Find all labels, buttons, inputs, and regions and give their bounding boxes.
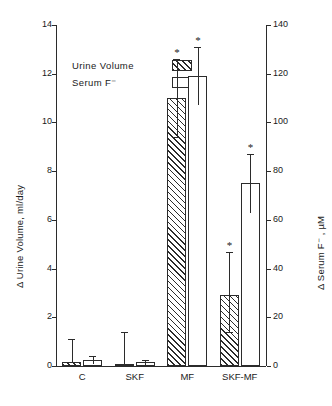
- bar-urine-volume-c: [62, 362, 81, 366]
- x-tick-label-skf-mf: SKF-MF: [210, 372, 270, 382]
- error-cap: [226, 332, 233, 333]
- error-bar-urine-volume-mf: [177, 59, 178, 137]
- left-tick-label: 10: [20, 117, 52, 126]
- right-tick: [267, 366, 271, 367]
- error-bar-serum-f-skf-mf: [250, 154, 251, 212]
- error-cap: [173, 137, 180, 138]
- right-tick: [267, 74, 271, 75]
- error-cap: [173, 59, 180, 60]
- right-tick-label: 120: [273, 69, 303, 78]
- significance-star: *: [174, 48, 180, 56]
- right-tick: [267, 122, 271, 123]
- right-tick-label: 60: [273, 215, 303, 224]
- bar-urine-volume-mf: [167, 98, 186, 366]
- right-tick-label: 80: [273, 166, 303, 175]
- left-tick-label: 8: [20, 166, 52, 175]
- right-tick-label: 140: [273, 20, 303, 29]
- left-tick: [52, 366, 56, 367]
- x-tick-label-skf: SKF: [105, 372, 165, 382]
- left-tick-label: 12: [20, 69, 52, 78]
- right-tick-label: 0: [273, 361, 303, 370]
- right-axis-title: Δ Serum F⁻ , µM: [315, 216, 326, 290]
- x-tick-label-c: C: [52, 372, 112, 382]
- bar-serum-f-mf: [188, 76, 207, 366]
- right-tick-label: 20: [273, 312, 303, 321]
- error-bar-serum-f-mf: [198, 47, 199, 105]
- significance-star: *: [195, 36, 201, 44]
- error-cap: [68, 339, 75, 340]
- left-tick-label: 6: [20, 215, 52, 224]
- significance-star: *: [227, 241, 233, 249]
- figure-bar-chart: Δ Urine Volume, ml/day Δ Serum F⁻ , µM 0…: [0, 0, 332, 406]
- error-cap: [89, 356, 96, 357]
- right-tick: [267, 220, 271, 221]
- right-tick: [267, 269, 271, 270]
- error-bar-serum-f-c: [93, 356, 94, 363]
- significance-star: *: [248, 143, 254, 151]
- right-tick: [267, 171, 271, 172]
- right-tick: [267, 317, 271, 318]
- error-cap: [142, 360, 149, 361]
- left-tick-label: 4: [20, 264, 52, 273]
- error-cap: [121, 332, 128, 333]
- x-axis-line: [56, 366, 266, 367]
- error-cap: [247, 154, 254, 155]
- plot-area: ****: [56, 25, 266, 366]
- right-axis-line: [266, 25, 267, 366]
- right-tick-label: 100: [273, 117, 303, 126]
- left-tick-label: 0: [20, 361, 52, 370]
- left-tick-label: 14: [20, 20, 52, 29]
- right-tick-label: 40: [273, 264, 303, 273]
- x-tick-label-mf: MF: [157, 372, 217, 382]
- error-bar-urine-volume-c: [72, 339, 73, 362]
- error-cap: [226, 252, 233, 253]
- error-bar-urine-volume-skf-mf: [229, 252, 230, 332]
- right-tick: [267, 25, 271, 26]
- error-bar-urine-volume-skf: [124, 332, 125, 365]
- left-tick-label: 2: [20, 312, 52, 321]
- error-cap: [194, 47, 201, 48]
